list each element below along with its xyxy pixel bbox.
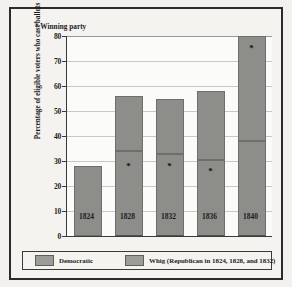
bar-group-1832[interactable] <box>156 36 184 236</box>
x-tick-label-1836: 1836 <box>190 212 230 221</box>
bar-segment-whig-1836[interactable] <box>197 91 225 160</box>
winner-star-1832: * <box>150 164 190 169</box>
x-tick-label-1832: 1832 <box>149 212 189 221</box>
legend-label-democratic: Democratic <box>59 257 93 264</box>
chart-legend: Democratic Whig (Republican in 1824, 182… <box>22 251 272 270</box>
winning-party-annotation: * Winning party <box>35 22 86 31</box>
winner-star-1828: * <box>109 164 149 169</box>
y-tick-mark-50 <box>62 111 66 112</box>
legend-swatch-whig <box>125 255 144 266</box>
x-tick-label-1840: 1840 <box>231 212 271 221</box>
y-tick-label-0: 0 <box>41 232 61 241</box>
y-tick-mark-10 <box>62 211 66 212</box>
plot-area: **** <box>66 36 272 237</box>
bar-segment-democratic-1840[interactable] <box>238 141 266 236</box>
bar-segment-democratic-1824[interactable] <box>74 166 102 236</box>
y-tick-mark-70 <box>62 61 66 62</box>
y-tick-label-20: 20 <box>41 182 61 191</box>
y-tick-mark-20 <box>62 186 66 187</box>
x-tick-label-1828: 1828 <box>108 212 148 221</box>
y-tick-label-30: 30 <box>41 157 61 166</box>
bar-segment-whig-1828[interactable] <box>115 96 143 151</box>
winner-star-1840: * <box>232 46 272 51</box>
bar-group-1824[interactable] <box>74 36 102 236</box>
legend-label-whig: Whig (Republican in 1824, 1828, and 1832… <box>149 257 275 264</box>
y-tick-mark-60 <box>62 86 66 87</box>
y-tick-label-50: 50 <box>41 107 61 116</box>
bar-segment-whig-1832[interactable] <box>156 99 184 154</box>
y-tick-mark-40 <box>62 136 66 137</box>
legend-entry-democratic: Democratic <box>35 255 93 266</box>
legend-entry-whig: Whig (Republican in 1824, 1828, and 1832… <box>125 255 275 266</box>
y-tick-mark-0 <box>62 236 66 237</box>
winner-star-1836: * <box>191 169 231 174</box>
y-tick-label-60: 60 <box>41 82 61 91</box>
x-tick-label-1824: 1824 <box>67 212 107 221</box>
y-tick-mark-30 <box>62 161 66 162</box>
y-tick-label-40: 40 <box>41 132 61 141</box>
y-tick-label-10: 10 <box>41 207 61 216</box>
y-tick-mark-80 <box>62 36 66 37</box>
bar-group-1828[interactable] <box>115 36 143 236</box>
legend-swatch-democratic <box>35 255 54 266</box>
chart-figure: Percentage of eligible voters who cast b… <box>9 7 283 280</box>
y-tick-label-80: 80 <box>41 32 61 41</box>
bar-group-1836[interactable] <box>197 36 225 236</box>
y-tick-label-70: 70 <box>41 57 61 66</box>
bar-group-1840[interactable] <box>238 36 266 236</box>
